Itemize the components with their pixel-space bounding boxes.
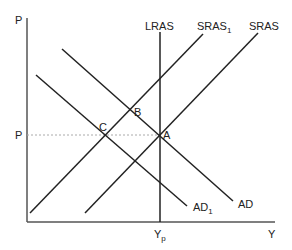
ad-label: AD	[238, 198, 253, 210]
x-axis-label: Y	[268, 228, 276, 240]
point-a-label: A	[163, 129, 171, 141]
ad-line	[62, 49, 233, 201]
diagram-canvas: P Y P Yp LRAS SRAS1 SRAS AD AD1 A B C	[0, 0, 292, 250]
point-c-label: C	[99, 121, 107, 133]
sras1-label: SRAS1	[197, 20, 232, 35]
sras-label: SRAS	[249, 20, 279, 32]
ad-as-diagram: P Y P Yp LRAS SRAS1 SRAS AD AD1 A B C	[0, 0, 292, 250]
potential-output-label: Yp	[154, 228, 166, 243]
price-level-label: P	[15, 129, 22, 141]
point-b-label: B	[134, 106, 141, 118]
y-axis-label: P	[15, 14, 22, 26]
sras1-line	[30, 34, 203, 213]
sras-line	[85, 33, 258, 213]
ad1-label: AD1	[193, 201, 213, 216]
lras-label: LRAS	[145, 20, 174, 32]
